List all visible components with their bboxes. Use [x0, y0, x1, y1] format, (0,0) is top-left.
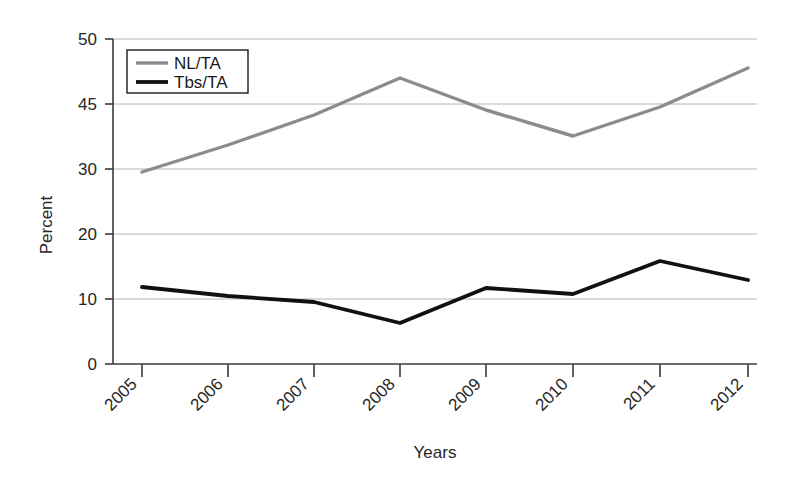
x-tick-label-5: 2010 — [532, 374, 572, 414]
x-axis-title: Years — [414, 443, 457, 462]
x-tick-label-2: 2007 — [273, 374, 313, 414]
y-tick-label-3: 30 — [78, 160, 97, 179]
x-tick-label-1: 2006 — [187, 374, 227, 414]
x-axis-tick-labels: 2005 2006 2007 2008 2009 2010 2011 2012 — [101, 374, 747, 414]
y-tick-label-1: 10 — [78, 290, 97, 309]
y-tick-label-0: 0 — [88, 355, 97, 374]
x-tick-label-3: 2008 — [359, 374, 399, 414]
x-tick-label-7: 2012 — [707, 374, 747, 414]
y-axis-tick-labels: 50 45 30 20 10 0 — [78, 30, 97, 374]
y-tick-label-4: 45 — [78, 95, 97, 114]
line-chart: 50 45 30 20 10 0 2005 2006 2007 2008 200… — [0, 0, 805, 481]
series-line-tbs-ta — [142, 261, 748, 323]
chart-canvas: 50 45 30 20 10 0 2005 2006 2007 2008 200… — [0, 0, 805, 481]
x-axis-ticks — [142, 364, 748, 377]
x-tick-label-0: 2005 — [101, 374, 141, 414]
legend: NL/TA Tbs/TA — [127, 50, 248, 93]
x-tick-label-4: 2009 — [445, 374, 485, 414]
x-tick-label-6: 2011 — [620, 374, 659, 413]
y-tick-label-5: 50 — [78, 30, 97, 49]
y-axis-title: Percent — [37, 195, 56, 254]
y-tick-label-2: 20 — [78, 225, 97, 244]
legend-label-tbs-ta: Tbs/TA — [174, 73, 228, 92]
y-axis-ticks — [105, 39, 113, 364]
legend-label-nl-ta: NL/TA — [174, 54, 222, 73]
